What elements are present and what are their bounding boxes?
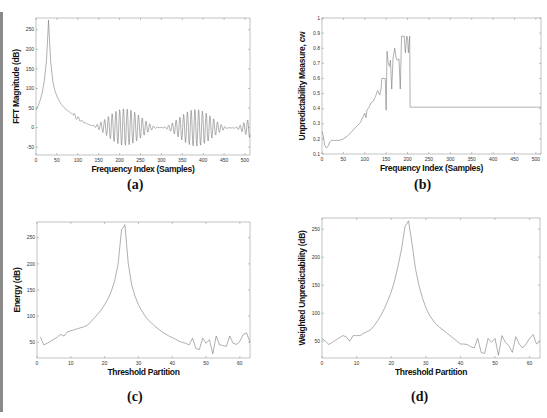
- x-tick-label: 40: [169, 360, 175, 366]
- caption-b: (b): [414, 177, 431, 193]
- series-line: [40, 225, 250, 354]
- x-tick-label: 500: [241, 157, 250, 163]
- x-tick-label: 300: [446, 156, 455, 162]
- chart-c: 010203040506050100150200250Threshold Par…: [12, 222, 250, 377]
- series-line: [322, 221, 540, 355]
- y-tick-label: 0.4: [313, 105, 320, 111]
- x-tick-label: 450: [510, 156, 519, 162]
- y-tick-label: 50: [28, 105, 34, 111]
- y-axis-label: Unpredictability Measure, cw: [297, 31, 307, 140]
- x-tick-label: 300: [157, 157, 166, 163]
- x-axis-label: Threshold Partition: [107, 367, 179, 377]
- y-tick-label: 100: [27, 313, 36, 319]
- y-tick-label: 50: [29, 339, 35, 345]
- x-tick-label: 50: [341, 156, 347, 162]
- x-tick-label: 10: [354, 360, 360, 366]
- plot-area: [322, 18, 541, 154]
- y-tick-label: 0.7: [313, 60, 320, 66]
- x-tick-label: 100: [74, 157, 83, 163]
- y-tick-label: 200: [312, 254, 321, 260]
- caption-a: (a): [127, 177, 143, 193]
- y-tick-label: 100: [312, 310, 321, 316]
- x-tick-label: 200: [403, 156, 412, 162]
- plot-area: [37, 222, 250, 358]
- y-tick-label: 50: [314, 338, 320, 344]
- x-tick-label: 350: [178, 157, 187, 163]
- x-tick-label: 30: [136, 360, 142, 366]
- x-tick-label: 500: [532, 156, 541, 162]
- y-tick-label: 0.8: [313, 45, 320, 51]
- y-axis-label: Energy (dB): [12, 267, 22, 312]
- x-tick-label: 20: [102, 360, 108, 366]
- y-tick-label: 200: [26, 46, 35, 52]
- y-tick-label: 0.9: [313, 30, 320, 36]
- x-tick-label: 30: [423, 360, 429, 366]
- series-line: [322, 36, 541, 148]
- caption-c: (c): [127, 389, 143, 405]
- y-tick-label: 200: [27, 261, 36, 267]
- y-axis-label: FFT Magnitude (dB): [11, 49, 21, 124]
- x-tick-label: 250: [136, 157, 145, 163]
- y-tick-label: 0.3: [313, 120, 320, 126]
- x-tick-label: 450: [220, 157, 229, 163]
- x-tick-label: 150: [95, 157, 104, 163]
- x-tick-label: 60: [527, 360, 533, 366]
- chart-a: 050100150200250300350400450500-500501001…: [0, 0, 547, 418]
- x-tick-label: 250: [425, 156, 434, 162]
- x-tick-label: 200: [115, 157, 124, 163]
- y-tick-label: 250: [312, 226, 321, 232]
- x-tick-label: 60: [237, 360, 243, 366]
- y-tick-label: 0: [31, 124, 34, 130]
- x-tick-label: 20: [388, 360, 394, 366]
- y-tick-label: 150: [312, 282, 321, 288]
- x-tick-label: 400: [199, 157, 208, 163]
- x-tick-label: 350: [468, 156, 477, 162]
- x-tick-label: 50: [492, 360, 498, 366]
- chart-b: 0501001502002503003504004505000.10.20.30…: [297, 15, 541, 173]
- y-tick-label: 100: [26, 85, 35, 91]
- y-tick-label: -50: [27, 144, 34, 150]
- x-tick-label: 150: [382, 156, 391, 162]
- x-tick-label: 50: [54, 157, 60, 163]
- y-tick-label: 150: [26, 66, 35, 72]
- x-axis-label: Frequency Index (Samples): [380, 163, 484, 173]
- y-tick-label: 1: [317, 15, 320, 21]
- y-tick-label: 250: [27, 234, 36, 240]
- caption-d: (d): [411, 389, 428, 405]
- x-tick-label: 50: [203, 360, 209, 366]
- x-tick-label: 400: [489, 156, 498, 162]
- y-tick-label: 0.5: [313, 90, 320, 96]
- x-tick-label: 40: [458, 360, 464, 366]
- x-tick-label: 0: [321, 360, 324, 366]
- x-tick-label: 10: [68, 360, 74, 366]
- chart-d: 010203040506050100150200250Threshold Par…: [297, 218, 540, 377]
- x-tick-label: 0: [321, 156, 324, 162]
- x-axis-label: Threshold Partition: [395, 367, 467, 377]
- x-tick-label: 100: [361, 156, 370, 162]
- y-tick-label: 0.1: [313, 151, 320, 157]
- y-tick-label: 0.2: [313, 136, 320, 142]
- x-axis-label: Frequency Index (Samples): [91, 164, 195, 174]
- y-tick-label: 0.6: [313, 75, 320, 81]
- y-tick-label: 150: [27, 287, 36, 293]
- series-line: [36, 20, 250, 146]
- plot-area: [36, 18, 250, 155]
- y-axis-label: Weighted Unpredictability (dB): [297, 230, 307, 346]
- chart-a: 050100150200250300350400450500-500501001…: [11, 18, 250, 174]
- x-tick-label: 0: [36, 360, 39, 366]
- y-tick-label: 250: [26, 26, 35, 32]
- plot-area: [322, 218, 540, 358]
- x-tick-label: 0: [35, 157, 38, 163]
